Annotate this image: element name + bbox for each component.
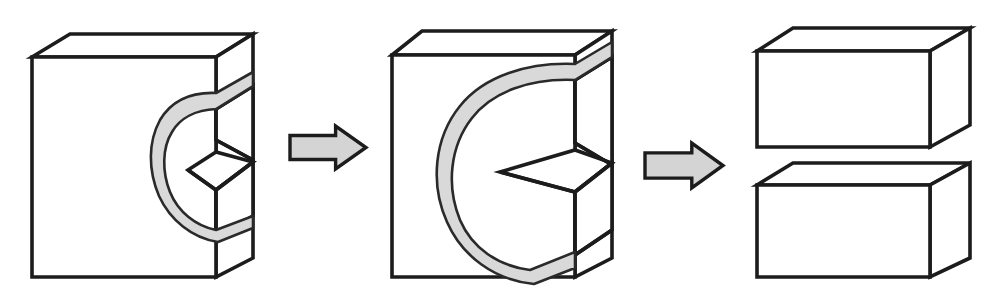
arrow-right-icon bbox=[290, 126, 366, 169]
block3-upper-right-face bbox=[930, 28, 970, 147]
block3-lower-right-face bbox=[930, 163, 970, 277]
block3-lower-front-face bbox=[757, 185, 930, 277]
process-arrow-1 bbox=[290, 126, 366, 169]
block3-upper-front-face bbox=[757, 51, 930, 147]
block3-lower-piece bbox=[757, 163, 970, 277]
arrow-right-icon bbox=[645, 143, 723, 188]
block-separation-figure: Block separation by curved kerf cut bbox=[0, 0, 1004, 291]
block1-front-face bbox=[32, 57, 216, 277]
block3-upper-piece bbox=[757, 28, 970, 147]
figure-canvas: Block separation by curved kerf cut bbox=[0, 0, 1004, 291]
stage-3-separated-blocks bbox=[757, 28, 970, 277]
stage-1-partial-cut-block bbox=[32, 34, 253, 277]
process-arrow-2 bbox=[645, 143, 723, 188]
stage-2-deep-cut-block bbox=[392, 31, 612, 284]
